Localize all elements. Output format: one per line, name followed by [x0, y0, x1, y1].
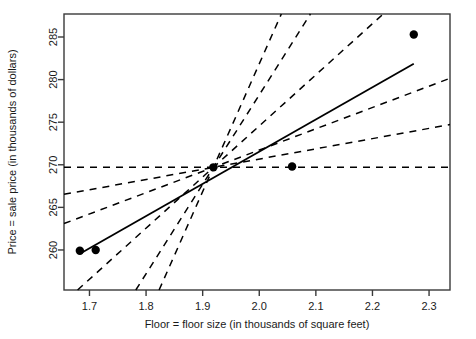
data-point: [410, 30, 418, 38]
x-tick-label: 1.7: [82, 300, 97, 312]
x-tick-label: 2.2: [365, 300, 380, 312]
data-point: [76, 247, 84, 255]
x-tick-label: 1.9: [195, 300, 210, 312]
x-tick-label: 2.1: [308, 300, 323, 312]
scatter-plot-figure: 1.71.81.92.02.12.22.3 260265270275280285…: [0, 0, 476, 339]
x-tick-label: 1.8: [138, 300, 153, 312]
y-tick-label: 275: [47, 113, 59, 131]
figure-background: [0, 0, 476, 339]
y-tick-label: 260: [47, 241, 59, 259]
y-tick-label: 280: [47, 70, 59, 88]
y-tick-label: 285: [47, 28, 59, 46]
y-axis-title: Price = sale price (in thousands of doll…: [6, 49, 18, 254]
plot-canvas: 1.71.81.92.02.12.22.3 260265270275280285…: [0, 0, 476, 339]
data-point: [209, 163, 217, 171]
x-tick-label: 2.3: [421, 300, 436, 312]
x-tick-label: 2.0: [252, 300, 267, 312]
y-tick-label: 270: [47, 156, 59, 174]
data-point: [288, 162, 296, 170]
y-tick-label: 265: [47, 198, 59, 216]
x-axis-title: Floor = floor size (in thousands of squa…: [145, 318, 370, 330]
data-point: [91, 246, 99, 254]
